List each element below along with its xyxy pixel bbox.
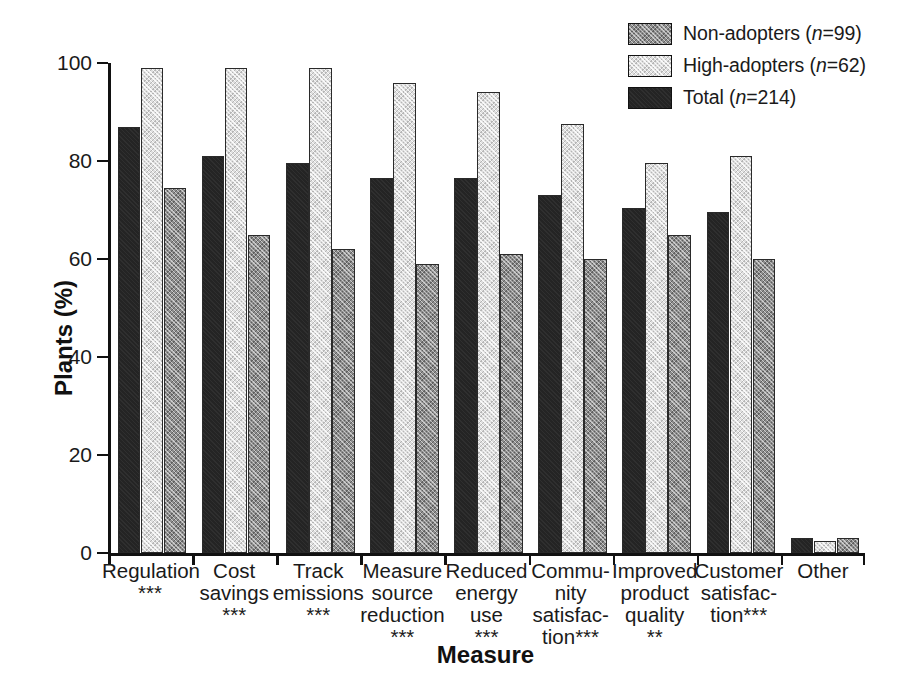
x-axis-category-label: Reduced energy use *** (438, 560, 534, 649)
legend-item: Total (n=214) (628, 86, 866, 109)
bar-non_adopters (837, 538, 860, 553)
x-axis-category-label: Cost savings *** (186, 560, 282, 626)
x-axis-category-label: Track emissions *** (270, 560, 366, 626)
y-axis-tick-label: 20 (69, 443, 92, 467)
y-axis-tick-label: 60 (69, 247, 92, 271)
x-axis-category-label: Measure source reduction *** (354, 560, 450, 649)
plot-area: 020406080100 (108, 63, 865, 553)
bar-total (707, 212, 730, 553)
bar-high_adopters (477, 92, 500, 553)
x-axis-category-label: Customer satisfac- tion*** (691, 560, 787, 626)
bar-total (370, 178, 393, 553)
bar-total (454, 178, 477, 553)
legend-swatch (628, 87, 672, 109)
bar-high_adopters (561, 124, 584, 553)
y-axis-tick (97, 454, 108, 457)
legend-label: Total (n=214) (683, 86, 796, 109)
legend-swatch (628, 23, 672, 45)
bar-total (202, 156, 225, 553)
bar-total (791, 538, 814, 553)
bar-total (622, 208, 645, 553)
bars-layer (108, 63, 865, 553)
bar-chart-figure: Non-adopters (n=99)High-adopters (n=62)T… (0, 0, 899, 675)
legend-item: High-adopters (n=62) (628, 54, 866, 77)
x-axis-category-label: Other (775, 560, 871, 582)
y-axis-tick (97, 258, 108, 261)
bar-high_adopters (730, 156, 753, 553)
y-axis-tick-label: 80 (69, 149, 92, 173)
y-axis-tick (97, 552, 108, 555)
bar-high_adopters (393, 83, 416, 553)
legend-item: Non-adopters (n=99) (628, 22, 866, 45)
bar-total (538, 195, 561, 553)
chart-legend: Non-adopters (n=99)High-adopters (n=62)T… (628, 22, 866, 109)
y-axis-tick (97, 160, 108, 163)
bar-non_adopters (332, 249, 355, 553)
y-axis-tick-label: 0 (80, 541, 92, 565)
bar-total (286, 163, 309, 553)
bar-non_adopters (416, 264, 439, 553)
legend-swatch (628, 55, 672, 77)
x-axis-title: Measure (0, 641, 899, 669)
legend-label: Non-adopters (n=99) (683, 22, 862, 45)
bar-high_adopters (309, 68, 332, 553)
x-axis-line (108, 553, 865, 556)
bar-non_adopters (584, 259, 607, 553)
y-axis-title: Plants (%) (50, 279, 78, 395)
bar-high_adopters (645, 163, 668, 553)
bar-total (118, 127, 141, 553)
bar-non_adopters (668, 235, 691, 554)
legend-label: High-adopters (n=62) (683, 54, 866, 77)
x-axis-category-label: Improved product quality ** (607, 560, 703, 649)
bar-non_adopters (164, 188, 187, 553)
x-axis-category-label: Commu- nity satisfac- tion*** (523, 560, 619, 649)
bar-non_adopters (753, 259, 776, 553)
bar-high_adopters (225, 68, 248, 553)
y-axis-tick-label: 100 (57, 51, 92, 75)
x-axis-category-label: Regulation *** (102, 560, 198, 604)
y-axis-tick (97, 356, 108, 359)
y-axis-tick (97, 62, 108, 65)
x-axis-title-text: Measure (365, 641, 534, 668)
y-axis-tick-label: 40 (69, 345, 92, 369)
bar-high_adopters (141, 68, 164, 553)
bar-non_adopters (500, 254, 523, 553)
bar-non_adopters (248, 235, 271, 554)
bar-high_adopters (814, 541, 837, 553)
